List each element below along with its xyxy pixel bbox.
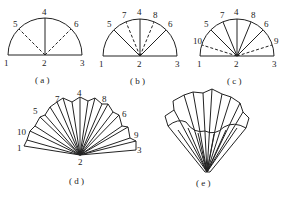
fold-line [211, 30, 237, 56]
point-label: 5 [33, 106, 38, 116]
cone-pleats [174, 89, 243, 172]
point-label: 5 [13, 19, 18, 29]
point-label: 8 [251, 10, 256, 20]
point-label: 9 [134, 130, 139, 140]
point-label: 2 [78, 157, 83, 167]
caption: ( c ) [227, 76, 242, 86]
point-label: 7 [220, 10, 225, 20]
point-label: 4 [137, 7, 142, 17]
point-label: 2 [137, 59, 142, 69]
panel-b: 1 2 3 4 5 6 7 8 ( b ) [99, 7, 180, 86]
panel-a: 1 2 3 4 5 6 ( a ) [4, 7, 85, 85]
panel-d: 1 2 3 4 5 6 7 8 9 10 ( d ) [17, 88, 142, 186]
point-label: 4 [42, 7, 47, 17]
caption: ( a ) [35, 75, 50, 85]
point-label: 6 [264, 19, 269, 29]
point-label: 5 [204, 19, 209, 29]
point-label: 10 [17, 127, 27, 137]
point-label: 2 [234, 59, 239, 69]
panel-c: 1 2 3 4 5 6 7 8 9 10 ( c ) [193, 7, 279, 86]
fold-line [114, 30, 140, 56]
point-label: 3 [80, 58, 85, 68]
fold-line-dashed [126, 22, 140, 56]
panel-e: ( e ) [165, 89, 249, 188]
point-label: 7 [55, 94, 60, 104]
point-label: 3 [137, 145, 142, 155]
point-label: 8 [153, 10, 158, 20]
point-label: 4 [234, 7, 239, 17]
point-label: 6 [74, 19, 79, 29]
point-label: 1 [4, 58, 9, 68]
point-label: 1 [197, 59, 202, 69]
point-label: 2 [42, 58, 47, 68]
point-label: 3 [175, 59, 180, 69]
point-label: 10 [193, 36, 203, 46]
fold-line-dashed [140, 22, 154, 56]
point-label: 4 [77, 88, 82, 98]
fold-line [140, 30, 166, 56]
caption: ( e ) [196, 178, 211, 188]
fan-folding-diagram: 1 2 3 4 5 6 ( a ) 1 2 3 4 5 6 7 8 ( b ) … [0, 0, 285, 200]
point-label: 6 [168, 19, 173, 29]
fold-line [223, 22, 237, 56]
fold-line [237, 22, 251, 56]
point-label: 1 [99, 59, 104, 69]
point-label: 9 [274, 36, 279, 46]
point-label: 5 [107, 19, 112, 29]
caption: ( b ) [130, 76, 145, 86]
point-label: 7 [122, 10, 127, 20]
point-label: 8 [102, 94, 107, 104]
point-label: 6 [122, 109, 127, 119]
fold-line-dashed [45, 29, 71, 55]
point-label: 3 [272, 59, 277, 69]
caption: ( d ) [69, 176, 84, 186]
pleat-lines [24, 97, 136, 155]
fold-line [237, 30, 263, 56]
fold-line-dashed [19, 29, 45, 55]
cone-outline [165, 89, 249, 172]
point-label: 1 [17, 143, 22, 153]
